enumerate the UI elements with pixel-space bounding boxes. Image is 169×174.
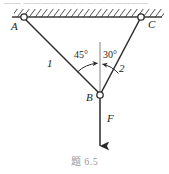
anchor-c-circle [138,14,144,20]
joint-b-circle [97,92,103,98]
anchor-a-circle [21,14,27,20]
figure-diagram-svg [0,0,169,174]
figure-caption: 题 6.5 [0,157,169,167]
point-label-b: B [86,92,93,103]
force-label-f: F [107,113,114,124]
rod-label-1: 1 [47,58,53,69]
angle-label-45: 45° [74,50,88,60]
point-label-c: C [148,19,155,30]
point-label-a: A [11,21,18,32]
angle-label-30: 30° [103,50,117,60]
rod-label-2: 2 [119,63,125,74]
physics-figure: 一一 一一一一一一一一一一一一一一 [0,0,169,174]
angle-arc-45 [77,63,97,72]
